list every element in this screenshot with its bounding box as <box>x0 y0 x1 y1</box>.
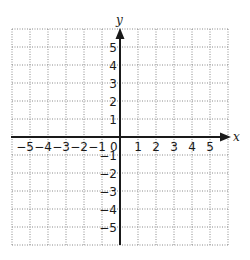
y-tick-label: 2 <box>109 95 117 109</box>
y-tick-label: 4 <box>109 59 117 73</box>
y-axis-label: y <box>115 13 123 27</box>
x-tick-label: 1 <box>134 140 142 154</box>
y-axis-arrow-icon <box>116 28 125 39</box>
y-tick-label: −3 <box>99 185 117 199</box>
x-tick-label: −2 <box>70 140 88 154</box>
x-axis-label: x <box>233 130 240 144</box>
x-tick-label: −4 <box>34 140 52 154</box>
x-axis-arrow-icon <box>220 133 231 142</box>
x-tick-label: 3 <box>170 140 178 154</box>
x-tick-label: 4 <box>188 140 196 154</box>
y-tick-label: 3 <box>109 77 117 91</box>
x-tick-label: −3 <box>52 140 70 154</box>
x-tick-label: −5 <box>16 140 34 154</box>
coordinate-plane: x y 0 −5−4−3−2−112345 54321−1−2−3−4−5 <box>0 0 250 260</box>
y-tick-label: −2 <box>99 167 117 181</box>
y-tick-label: −1 <box>99 149 117 163</box>
x-tick-label: 2 <box>152 140 160 154</box>
axes: x y 0 <box>11 13 240 245</box>
y-tick-label: −5 <box>99 221 117 235</box>
y-tick-label: 5 <box>109 41 117 55</box>
x-tick-label: 5 <box>206 140 214 154</box>
y-tick-label: 1 <box>109 113 117 127</box>
y-tick-label: −4 <box>99 203 117 217</box>
